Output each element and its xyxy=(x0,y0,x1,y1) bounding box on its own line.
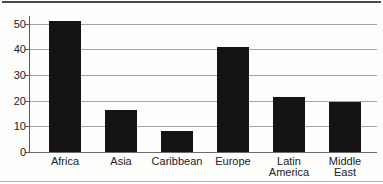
x-category-label-latin-america: Latin America xyxy=(261,156,317,178)
y-tick-label-20: 20 xyxy=(0,96,26,107)
gridline-y-40 xyxy=(30,49,377,50)
y-tick-label-30: 30 xyxy=(0,70,26,81)
x-category-label-europe: Europe xyxy=(205,156,261,167)
bar-chart: 01020304050AfricaAsiaCaribbeanEuropeLati… xyxy=(0,0,383,184)
top-divider-line xyxy=(2,1,381,3)
y-tick-label-0: 0 xyxy=(0,147,26,158)
y-tick-label-10: 10 xyxy=(0,121,26,132)
x-category-label-middle-east: Middle East xyxy=(317,156,373,178)
bar-latin-america xyxy=(273,97,305,152)
bar-asia xyxy=(105,110,137,152)
gridline-y-30 xyxy=(30,75,377,76)
y-tick-label-40: 40 xyxy=(0,44,26,55)
bar-caribbean xyxy=(161,131,193,152)
gridline-y-0 xyxy=(30,152,377,153)
y-axis-line xyxy=(29,16,30,153)
bar-middle-east xyxy=(329,102,361,152)
bottom-divider-line xyxy=(0,181,383,182)
gridline-y-10 xyxy=(30,126,377,127)
gridline-y-50 xyxy=(30,24,377,25)
x-category-label-africa: Africa xyxy=(37,156,93,167)
gridline-y-20 xyxy=(30,101,377,102)
bar-africa xyxy=(49,21,81,152)
x-category-label-caribbean: Caribbean xyxy=(149,156,205,167)
bar-europe xyxy=(217,47,249,152)
y-tick-label-50: 50 xyxy=(0,19,26,30)
x-category-label-asia: Asia xyxy=(93,156,149,167)
